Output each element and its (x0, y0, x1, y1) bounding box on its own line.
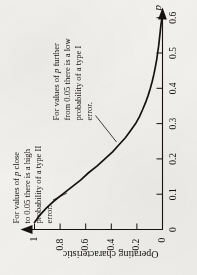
leader-line-type-one (95, 115, 116, 142)
x-tick-label-3: 0.3 (168, 117, 178, 129)
annotation-type-two-line-3: error. (43, 145, 54, 223)
figure-screenshot: 0 0.1 0.2 0.3 0.4 0.5 0.6 0 0.2 0.4 0.6 … (0, 0, 197, 275)
annotation-type-one-line-1: from 0.05 there is a low (61, 38, 72, 120)
x-tick-label-1: 0.1 (168, 188, 178, 200)
annotation-type-one-error: For values of p further from 0.05 there … (50, 38, 94, 120)
x-tick-label-5: 0.5 (168, 47, 178, 59)
chart-canvas (0, 0, 197, 275)
annotation-type-two-line-0: For values of p close (10, 145, 21, 223)
annotation-type-two-error: For values of p close to 0.05 there is a… (10, 145, 54, 223)
y-axis-title: Operating characteristic (62, 248, 158, 259)
y-tick-label-5: 1 (29, 236, 39, 241)
annotation-type-two-line-1: to 0.05 there is a high (21, 145, 32, 223)
x-axis-title: p (150, 5, 162, 11)
x-tick-label-4: 0.4 (168, 82, 178, 94)
annotation-type-two-line-2: probability of a type II (32, 145, 43, 223)
rotated-figure-stage: 0 0.1 0.2 0.3 0.4 0.5 0.6 0 0.2 0.4 0.6 … (0, 0, 197, 275)
annotation-type-one-line-3: error. (83, 38, 94, 120)
annotation-type-one-line-2: probability of a type I (72, 38, 83, 120)
y-tick-label-0: 0 (157, 237, 167, 242)
x-tick-label-2: 0.2 (168, 152, 178, 164)
plot-area: 0 0.1 0.2 0.3 0.4 0.5 0.6 0 0.2 0.4 0.6 … (0, 0, 197, 275)
y-axis-arrow-icon (20, 225, 32, 234)
x-tick-label-6: 0.6 (168, 11, 178, 23)
y-axis-ticks (34, 223, 162, 229)
x-tick-label-0: 0 (168, 227, 178, 232)
annotation-type-one-line-0: For values of p further (50, 38, 61, 120)
